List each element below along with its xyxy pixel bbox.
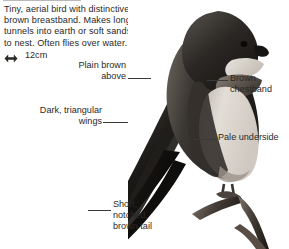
label-dark-triangular-wings: Dark, triangular wings: [10, 105, 102, 127]
size-value: 12cm: [25, 50, 47, 61]
label-short-notched-brown-tail: Short, notched, brown tail: [113, 199, 175, 233]
double-headed-arrow-icon: [4, 50, 18, 61]
top-divider: [3, 0, 81, 1]
size-indicator: 12cm: [4, 49, 47, 61]
label-pale-underside: Pale underside: [218, 132, 288, 143]
label-brown-chestband: Brown chestband: [230, 73, 288, 95]
leader-line-dark-triangular-wings: [103, 122, 128, 123]
leader-line-short-notched-brown-tail: [88, 210, 111, 211]
leader-line-pale-underside: [194, 139, 216, 140]
eye-shape: [241, 41, 248, 47]
bird-field-guide-page: Tiny, aerial bird with distinctive, brow…: [0, 0, 289, 249]
leader-line-brown-chestband: [207, 80, 228, 81]
label-plain-brown-above: Plain brown above: [44, 60, 126, 82]
leader-line-plain-brown-above: [128, 78, 151, 79]
